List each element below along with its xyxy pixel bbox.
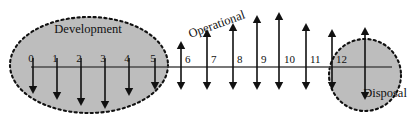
tick-label-8: 8 (237, 53, 243, 65)
arrow-head-down (203, 82, 211, 90)
arrow-head-down (177, 82, 185, 90)
tick-group-6 (177, 41, 185, 90)
tick-group-8 (229, 23, 237, 90)
tick-label-7: 7 (211, 53, 217, 65)
phase-label-operational: Operational (187, 7, 248, 41)
tick-label-6: 6 (185, 53, 191, 65)
arrow-head-up (302, 23, 310, 31)
arrow-head-up (275, 12, 283, 20)
arrow-head-down (253, 82, 261, 90)
tick-label-1: 1 (52, 52, 58, 64)
tick-labels-layer: 0123456789101112 (28, 52, 347, 65)
tick-label-4: 4 (124, 52, 130, 64)
lifecycle-diagram: 0123456789101112 DevelopmentOperationalD… (0, 0, 416, 126)
tick-label-12: 12 (336, 53, 347, 65)
tick-label-5: 5 (150, 52, 156, 64)
arrow-head-down (275, 82, 283, 90)
phase-label-disposal: Disposal (363, 86, 407, 100)
arrow-head-down (302, 82, 310, 90)
tick-group-11 (302, 23, 310, 90)
arrow-head-up (361, 27, 369, 35)
arrow-head-down (229, 82, 237, 90)
arrow-head-up (177, 41, 185, 49)
tick-label-0: 0 (28, 52, 34, 64)
tick-label-2: 2 (76, 52, 82, 64)
tick-label-11: 11 (310, 53, 321, 65)
phase-label-development: Development (54, 22, 122, 36)
tick-group-9 (253, 15, 261, 90)
tick-label-9: 9 (261, 53, 267, 65)
tick-label-10: 10 (284, 53, 296, 65)
tick-label-3: 3 (100, 52, 106, 64)
tick-group-10 (275, 12, 283, 90)
arrow-head-up (253, 15, 261, 23)
diagram-canvas: 0123456789101112 DevelopmentOperationalD… (0, 0, 416, 126)
tick-group-7 (203, 29, 211, 90)
arrow-head-up (328, 29, 336, 37)
